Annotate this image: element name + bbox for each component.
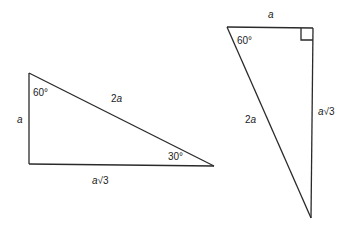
right-long-leg-label: a√3: [318, 106, 335, 117]
right-long-leg: [311, 28, 313, 218]
left-angle-60-label: 60°: [33, 87, 48, 98]
right-angle-marker: [301, 28, 313, 40]
left-long-leg: [29, 164, 214, 166]
right-hypotenuse-label: 2a: [245, 114, 257, 125]
right-hypotenuse-var: a: [251, 114, 257, 125]
left-long-leg-root: √3: [98, 175, 109, 186]
left-hypotenuse: [29, 73, 214, 166]
left-hypotenuse-label: 2a: [111, 93, 123, 104]
left-hypotenuse-var: a: [117, 93, 123, 104]
right-angle-60-label: 60°: [237, 35, 252, 46]
right-short-leg-label: a: [268, 9, 274, 20]
left-triangle: 60° 30° a 2a a√3: [17, 73, 214, 186]
left-short-leg-label: a: [17, 114, 23, 125]
right-short-leg: [227, 27, 313, 28]
right-triangle: 60° a 2a a√3: [227, 9, 335, 218]
right-long-leg-root: √3: [324, 106, 335, 117]
diagram-canvas: 60° 30° a 2a a√3 60° a 2a a√3: [0, 0, 349, 227]
right-hypotenuse: [227, 27, 311, 218]
left-long-leg-label: a√3: [92, 175, 109, 186]
left-angle-30-label: 30°: [168, 151, 183, 162]
